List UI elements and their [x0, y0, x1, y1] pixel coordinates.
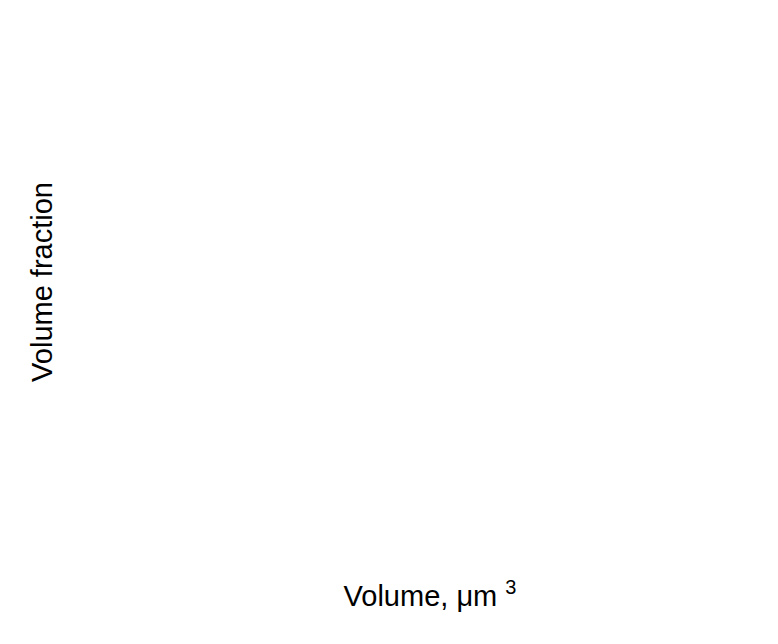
- y-axis-title: Volume fraction: [26, 182, 58, 382]
- x-axis-title-superscript: 3: [505, 576, 516, 598]
- x-axis-title: Volume, μm 3: [344, 576, 517, 612]
- line-chart-canvas: Volume fraction Volume, μm 3: [0, 0, 778, 644]
- volume-distribution-figure: Volume fraction Volume, μm 3: [0, 0, 778, 644]
- x-axis-title-base: Volume, μm: [344, 580, 498, 612]
